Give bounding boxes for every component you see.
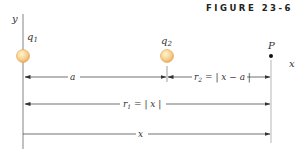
p-label: P (267, 40, 275, 51)
x-dim-label: x (138, 129, 143, 139)
x-axis-label: x (289, 58, 295, 69)
q2-label: q2 (161, 35, 172, 48)
figure-title: FIGURE 23-6 (206, 3, 293, 13)
y-axis-label: y (11, 13, 18, 24)
charge-q2 (161, 50, 174, 63)
r1-label: r1 = | x | (123, 99, 161, 110)
point-p (269, 54, 273, 58)
q1-label: q1 (27, 31, 38, 44)
a-label: a (70, 72, 75, 82)
diagram-canvas: y x q1 q2 P a r2 = | x − a | r1 = | x | … (0, 0, 305, 149)
charge-q1 (17, 50, 30, 63)
figure-23-6: FIGURE 23-6 y (0, 0, 305, 149)
r2-label: r2 = | x − a | (194, 72, 251, 83)
